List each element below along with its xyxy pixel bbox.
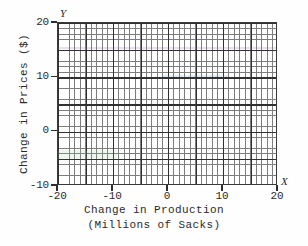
x-tick-label: 20	[247, 191, 307, 202]
y-axis-title: Change in Prices ($)	[18, 14, 30, 194]
y-tick-mark	[51, 130, 57, 131]
x-axis-title-line2: (Millions of Sacks)	[0, 218, 308, 233]
y-tick-label: 10	[0, 71, 49, 82]
scan-artifact-bottom	[58, 150, 117, 159]
major-gridlines	[58, 23, 276, 184]
scan-artifact-top	[58, 47, 276, 49]
y-tick-mark	[51, 21, 57, 22]
x-tick-label: 10	[192, 191, 252, 202]
y-tick-mark	[51, 76, 57, 77]
minor-gridlines	[58, 23, 276, 184]
x-tick-label: -20	[27, 191, 87, 202]
scan-artifact-middle	[163, 75, 228, 77]
plot-area	[57, 22, 277, 185]
y-axis-marker: Y	[60, 8, 66, 19]
y-tick-label: 20	[0, 17, 49, 28]
chart-figure: Change in Prices ($) Y X -1001020 -20-10…	[0, 0, 308, 246]
x-tick-label: 0	[137, 191, 197, 202]
y-tick-label: 0	[0, 125, 49, 136]
x-axis-title: Change in Production (Millions of Sacks)	[0, 203, 308, 233]
x-axis-marker: X	[281, 176, 288, 187]
x-axis-title-line1: Change in Production	[84, 204, 224, 216]
x-tick-label: -10	[82, 191, 142, 202]
y-tick-label: -10	[0, 180, 49, 191]
